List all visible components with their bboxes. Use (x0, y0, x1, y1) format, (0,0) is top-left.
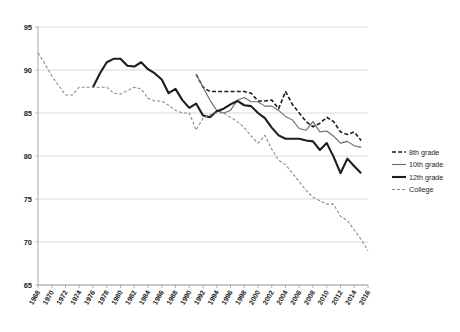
xtick-label-1972: 1972 (55, 289, 69, 306)
xtick-label-2006: 2006 (289, 289, 303, 306)
xtick-label-1980: 1980 (110, 289, 124, 306)
xtick-label-1974: 1974 (69, 289, 83, 306)
legend-label-1: 10th grade (409, 160, 443, 169)
xtick-label-2008: 2008 (303, 289, 317, 306)
xtick-label-1994: 1994 (206, 289, 220, 306)
xtick-label-2000: 2000 (248, 289, 262, 306)
xtick-label-1988: 1988 (165, 289, 179, 306)
xtick-label-2012: 2012 (330, 289, 344, 306)
legend-label-3: College (409, 185, 433, 194)
ytick-label-80: 80 (24, 152, 32, 161)
xtick-label-1978: 1978 (96, 289, 110, 306)
series-line-0 (196, 74, 361, 140)
xtick-label-1982: 1982 (124, 289, 138, 306)
xtick-label-2016: 2016 (358, 289, 372, 306)
xtick-label-2002: 2002 (261, 289, 275, 306)
xtick-label-2010: 2010 (316, 289, 330, 306)
xtick-label-1996: 1996 (220, 289, 234, 306)
xtick-label-1986: 1986 (151, 289, 165, 306)
legend-label-0: 8th grade (409, 148, 439, 157)
xtick-label-1992: 1992 (193, 289, 207, 306)
line-chart: 6570758085909519681970197219741976197819… (0, 0, 460, 332)
legend: 8th grade10th grade12th gradeCollege (392, 148, 443, 195)
ytick-label-95: 95 (24, 23, 32, 32)
chart-canvas: 6570758085909519681970197219741976197819… (0, 0, 460, 332)
series-group (38, 53, 368, 251)
ytick-label-90: 90 (24, 66, 32, 75)
ytick-label-70: 70 (24, 238, 32, 247)
ytick-label-85: 85 (24, 109, 32, 118)
xtick-label-1970: 1970 (41, 289, 55, 306)
xtick-label-1976: 1976 (83, 289, 97, 306)
y-gridlines: 65707580859095 (24, 23, 368, 290)
xtick-label-1968: 1968 (28, 289, 42, 306)
legend-label-2: 12th grade (409, 173, 443, 182)
xtick-label-1990: 1990 (179, 289, 193, 306)
xtick-label-2014: 2014 (344, 289, 358, 306)
xtick-label-2004: 2004 (275, 289, 289, 306)
ytick-label-65: 65 (24, 281, 32, 290)
x-axis-ticks: 1968197019721974197619781980198219841986… (28, 285, 372, 306)
series-line-3 (38, 53, 368, 251)
ytick-label-75: 75 (24, 195, 32, 204)
xtick-label-1998: 1998 (234, 289, 248, 306)
xtick-label-1984: 1984 (138, 289, 152, 306)
